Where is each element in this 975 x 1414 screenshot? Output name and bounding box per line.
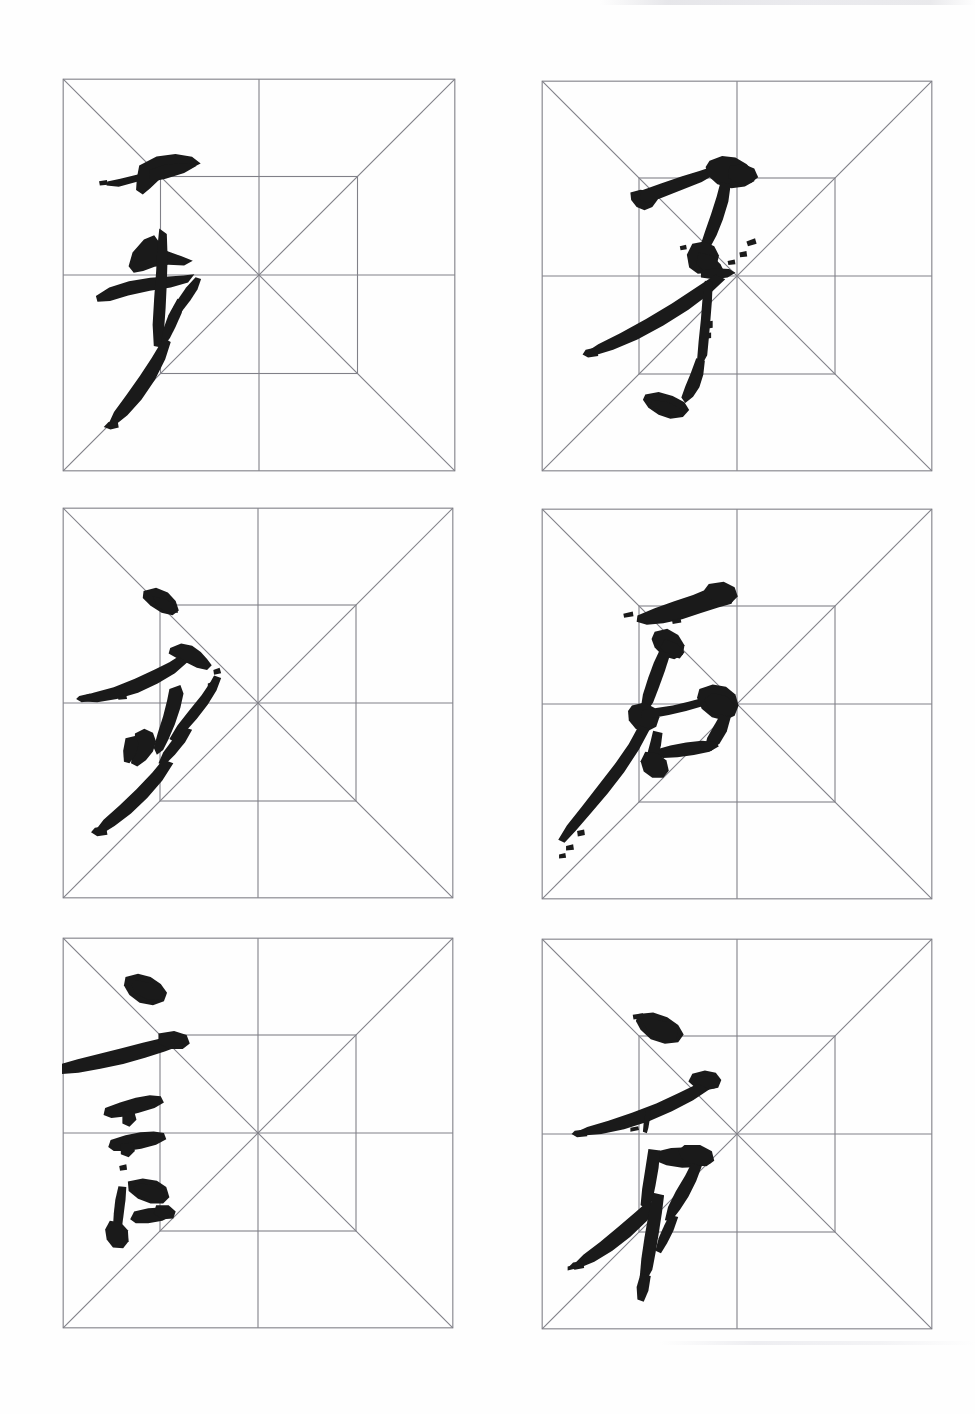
mizige-grid-5 — [541, 938, 933, 1330]
character-cell-0[interactable] — [62, 78, 456, 472]
mizige-grid-3 — [541, 508, 933, 900]
mizige-grid-4 — [62, 937, 454, 1329]
practice-sheet-page — [0, 0, 975, 1414]
character-cell-5[interactable] — [541, 938, 933, 1330]
mizige-grid-0 — [62, 78, 456, 472]
scan-artifact-bottom — [660, 1341, 975, 1345]
mizige-grid-1 — [541, 80, 933, 472]
mizige-grid-2 — [62, 507, 454, 899]
scan-artifact-top — [600, 0, 975, 5]
character-cell-4[interactable] — [62, 937, 454, 1329]
character-cell-1[interactable] — [541, 80, 933, 472]
character-cell-2[interactable] — [62, 507, 454, 899]
character-cell-3[interactable] — [541, 508, 933, 900]
